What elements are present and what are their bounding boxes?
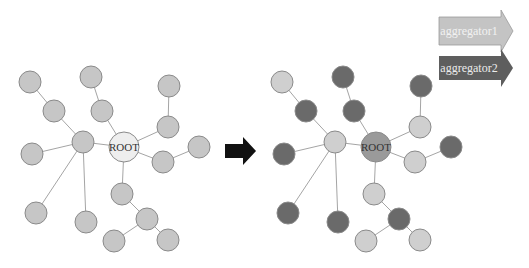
transform-arrow-icon — [225, 137, 256, 165]
left-tree: ROOT — [19, 66, 210, 252]
tree-diagram: ROOT ROOT aggregator1 aggregator2 — [0, 0, 529, 268]
tree-node — [152, 151, 174, 173]
tree-node — [363, 183, 385, 205]
tree-node — [91, 100, 113, 122]
edge — [335, 142, 338, 222]
edge — [83, 142, 86, 222]
root-label: ROOT — [109, 141, 139, 153]
tree-node — [404, 151, 426, 173]
tree-node — [409, 229, 431, 251]
tree-node — [158, 75, 180, 97]
tree-node — [355, 230, 377, 252]
tree-node — [21, 143, 43, 165]
tree-node — [324, 131, 346, 153]
tree-node — [271, 71, 293, 93]
tree-node — [72, 131, 94, 153]
tree-node — [157, 116, 179, 138]
tree-node — [157, 229, 179, 251]
legend-aggregator1: aggregator1 — [439, 10, 513, 52]
tree-node — [332, 66, 354, 88]
tree-node — [75, 211, 97, 233]
tree-node — [343, 100, 365, 122]
tree-node — [188, 136, 210, 158]
tree-node — [410, 75, 432, 97]
tree-node — [273, 143, 295, 165]
legend-aggregator2: aggregator2 — [439, 49, 513, 87]
tree-node — [295, 100, 317, 122]
tree-node — [19, 71, 41, 93]
tree-node — [327, 211, 349, 233]
right-tree: ROOT — [271, 66, 462, 252]
tree-node — [25, 202, 47, 224]
tree-node — [136, 208, 158, 230]
tree-node — [111, 183, 133, 205]
tree-node — [440, 136, 462, 158]
root-label: ROOT — [361, 141, 391, 153]
tree-node — [103, 230, 125, 252]
tree-node — [277, 202, 299, 224]
tree-node — [43, 100, 65, 122]
tree-node — [409, 116, 431, 138]
legend-label-aggregator1: aggregator1 — [440, 24, 497, 38]
tree-node — [80, 66, 102, 88]
tree-node — [388, 208, 410, 230]
legend-label-aggregator2: aggregator2 — [440, 61, 497, 75]
